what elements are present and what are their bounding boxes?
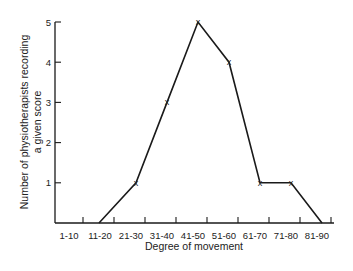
y-tick-label: 3 — [46, 97, 51, 108]
x-tick-label: 11-20 — [88, 230, 112, 241]
x-tick-label: 1-10 — [59, 230, 78, 241]
x-tick-label: 71-80 — [274, 230, 298, 241]
y-axis: 12345 — [46, 17, 61, 224]
x-tick-label: 81-90 — [305, 230, 329, 241]
y-tick-label: 5 — [46, 17, 51, 28]
line-chart: 12345 1-1011-2021-3031-4041-5051-6061-70… — [0, 0, 353, 271]
data-series: xxxxxx — [99, 17, 322, 223]
y-tick-label: 1 — [46, 177, 51, 188]
y-axis-title-line: a given score — [31, 91, 43, 154]
x-tick-label: 61-70 — [243, 230, 267, 241]
series-line — [99, 22, 322, 223]
y-axis-title-line: Number of physiotherapists recording — [18, 35, 30, 210]
y-tick-label: 4 — [46, 57, 51, 68]
y-axis-title: Number of physiotherapists recordinga gi… — [18, 35, 43, 210]
x-tick-label: 21-30 — [119, 230, 143, 241]
y-tick-label: 2 — [46, 137, 51, 148]
x-axis-title: Degree of movement — [145, 240, 243, 252]
x-axis: 1-1011-2021-3031-4041-5051-6061-7071-808… — [55, 217, 334, 241]
